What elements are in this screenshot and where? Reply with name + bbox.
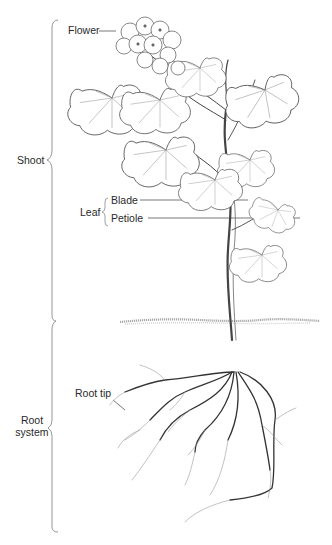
- root-system-label-line2: system: [14, 426, 50, 438]
- petiole-label: Petiole: [111, 212, 143, 224]
- shoot-bracket: [47, 20, 58, 321]
- root-system-label-line1: Root: [14, 414, 50, 426]
- leaf-label: Leaf: [80, 206, 100, 218]
- root-tip-leader-line: [113, 400, 125, 410]
- flower-label: Flower: [68, 24, 100, 36]
- blade-label: Blade: [111, 194, 138, 206]
- root-tip-label: Root tip: [75, 387, 111, 399]
- shoot-label: Shoot: [17, 154, 44, 166]
- flower-cluster: [116, 17, 185, 75]
- leaf-bracket: [102, 198, 108, 226]
- plant-illustration: [0, 0, 332, 545]
- leaves: [68, 58, 303, 282]
- plant-diagram: Flower Shoot Leaf Blade Petiole Root tip…: [0, 0, 332, 545]
- soil-surface: [120, 319, 320, 324]
- roots: [110, 365, 296, 522]
- root-system-label: Root system: [14, 414, 50, 438]
